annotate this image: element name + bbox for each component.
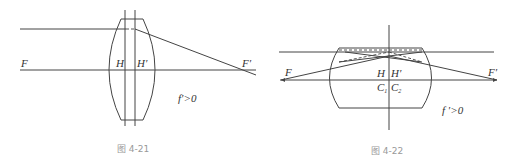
arrow-tip-F: [281, 78, 285, 82]
label-focal-condition: f′>0: [178, 92, 197, 104]
arrow-tip-F-prime: [493, 78, 497, 82]
label-C1: C1: [377, 81, 387, 94]
label-H-prime: H′: [390, 67, 402, 79]
label-F-prime: F′: [487, 66, 498, 78]
figure-caption: 图 4-22: [371, 146, 403, 156]
figure-4-21: F H H′ F′ f′>0 图 4-21: [20, 10, 256, 154]
label-focal-condition: f ′>0: [442, 104, 464, 116]
label-H: H: [115, 57, 125, 69]
lens-right-surface: [422, 48, 432, 108]
figure-4-22: F H H′ C1 C2 F′ f ′>0 图 4-22: [279, 25, 498, 156]
figure-caption: 图 4-21: [117, 144, 149, 154]
label-H-prime: H′: [136, 57, 148, 69]
label-F: F: [284, 66, 292, 78]
ray-from-F: [281, 56, 389, 80]
label-F: F: [20, 57, 28, 69]
label-H: H: [376, 67, 386, 79]
label-C2: C2: [391, 81, 401, 94]
label-F-prime: F′: [241, 57, 252, 69]
optics-diagrams: F H H′ F′ f′>0 图 4-21 F: [0, 0, 514, 165]
lens-left-surface: [330, 48, 340, 108]
